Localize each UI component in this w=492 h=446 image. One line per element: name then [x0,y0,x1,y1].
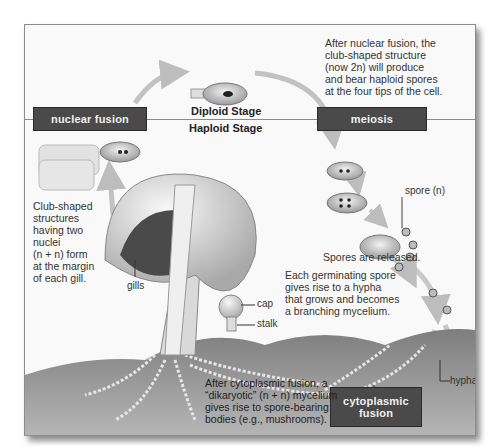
diagram-frame: Diploid Stage Haploid Stage nuclear fusi… [24,24,476,436]
germination-caption: Each germinating spore gives rise to a h… [285,269,399,317]
cytoplasmic-fusion-line1: cytoplasmic [343,395,409,407]
nuclear-fusion-box: nuclear fusion [33,107,147,131]
meiosis-box: meiosis [317,107,427,131]
arrow-to-club [110,175,113,215]
dikaryotic-caption: After cytoplasmic fusion, a “dikaryotic”… [205,377,337,425]
haploid-stage-label: Haploid Stage [189,122,262,134]
cap-label: cap [257,298,273,309]
hypha-label: hypha [450,375,476,386]
club-caption: Club-shaped structures having two nuclei… [33,200,94,284]
cytoplasmic-fusion-line2: fusion [359,407,393,419]
diploid-stage-label: Diploid Stage [191,105,261,117]
stalk-label: stalk [257,318,278,329]
cytoplasmic-fusion-box: cytoplasmic fusion [330,387,422,427]
gills-label: gills [127,280,144,291]
meiosis-caption: After nuclear fusion, the club-shaped st… [325,37,442,97]
arrow-to-diploid [135,73,175,103]
spore-label: spore (n) [405,185,445,196]
spores-released-caption: Spores are released. [323,251,420,263]
